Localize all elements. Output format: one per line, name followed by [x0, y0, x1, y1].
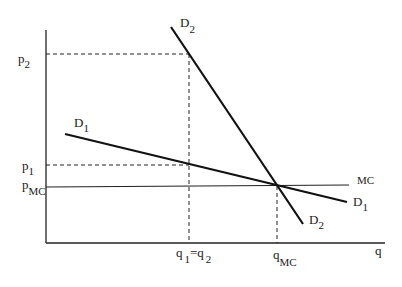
mc-label: MC: [357, 174, 374, 186]
pmc-label: pMC: [22, 177, 46, 197]
d1-label-left: D1: [74, 115, 89, 134]
q1-eq-q2-label: q1=q2: [176, 245, 211, 265]
d1-label-right: D1: [353, 194, 368, 213]
d1-curve: [65, 134, 347, 202]
d2-label-top: D2: [180, 15, 195, 35]
d2-label-bottom: D2: [309, 212, 324, 231]
q-axis-label: q: [375, 243, 382, 258]
p1-label: p1: [22, 158, 34, 177]
d2-curve: [171, 27, 303, 224]
p2-label: p2: [18, 51, 30, 70]
qmc-label: qMC: [273, 247, 297, 268]
economics-diagram: p2 p1 pMC q1=q2 qMC q MC D1 D1 D2 D2: [0, 0, 402, 287]
mc-line: [46, 185, 349, 187]
